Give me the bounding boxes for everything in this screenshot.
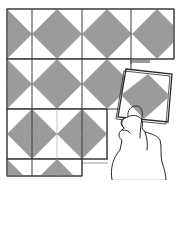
held-tile (116, 69, 172, 124)
tile-row-4 (7, 159, 82, 176)
hand-palm (111, 115, 166, 180)
diamond-partial (131, 59, 150, 63)
